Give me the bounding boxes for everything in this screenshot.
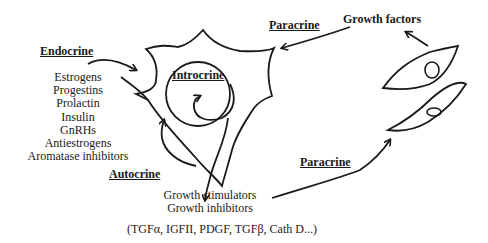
- stromal-nucleus-upper: [425, 62, 439, 78]
- main-cell-outline: [136, 30, 274, 186]
- endocrine-label: Endocrine: [40, 44, 93, 59]
- stromal-cell-upper: [383, 46, 458, 89]
- growth-factors-label: Growth factors: [343, 12, 421, 27]
- introcrine-label: Introcrine: [172, 68, 224, 83]
- endocrine-arrow: [88, 60, 136, 70]
- autocrine-arrow: [162, 120, 196, 166]
- factor-aromatase-inhibitors: Aromatase inhibitors: [18, 150, 138, 163]
- paracrine-bottom-label: Paracrine: [300, 155, 351, 170]
- growth-factors-arrow: [406, 32, 428, 46]
- introcrine-arrow: [194, 84, 234, 120]
- secreted-factors: Growth stimulators Growth inhibitors: [150, 189, 270, 215]
- secreted-examples: (TGFα, IGFII, PDGF, TGFβ, Cath D...): [127, 222, 317, 237]
- factor-prolactin: Prolactin: [18, 97, 138, 110]
- endocrine-factor-list: Estrogens Progestins Prolactin Insulin G…: [18, 71, 138, 163]
- stromal-nucleus-lower: [427, 108, 441, 116]
- growth-inhibitors: Growth inhibitors: [150, 202, 270, 215]
- factor-insulin: Insulin: [18, 111, 138, 124]
- paracrine-top-label: Paracrine: [269, 18, 320, 33]
- autocrine-label: Autocrine: [109, 167, 160, 182]
